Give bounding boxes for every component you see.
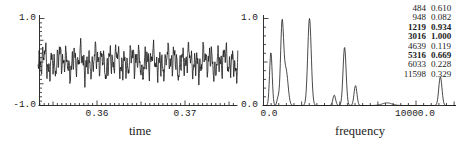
time-plot-ymin-label: -1.0 — [8, 100, 36, 110]
peak-table-row: 115980.329 — [393, 70, 461, 79]
time-series-curve — [38, 38, 238, 87]
time-plot-ymax-label: 1.0 — [12, 13, 36, 23]
freq-plot-xtick-10000: 10000.0 — [375, 109, 455, 119]
peak-table: 4840.6109480.08212190.93430161.00046390.… — [393, 4, 461, 79]
freq-plot-ymax-label: 1.0 — [230, 13, 258, 23]
fourier-analysis-figure: 1.0 -1.0 0.36 0.37 time 1.0 0.0 0.0 1000… — [0, 0, 475, 149]
peak-amplitude: 0.329 — [431, 70, 451, 79]
time-axis-label: time — [100, 125, 180, 138]
freq-plot-xtick-0: 0.0 — [249, 109, 289, 119]
peak-frequency: 11598 — [393, 70, 426, 79]
time-plot-xtick-036: 0.36 — [77, 109, 117, 119]
frequency-axis-label: frequency — [310, 125, 410, 138]
time-plot-xtick-037: 0.37 — [165, 109, 205, 119]
